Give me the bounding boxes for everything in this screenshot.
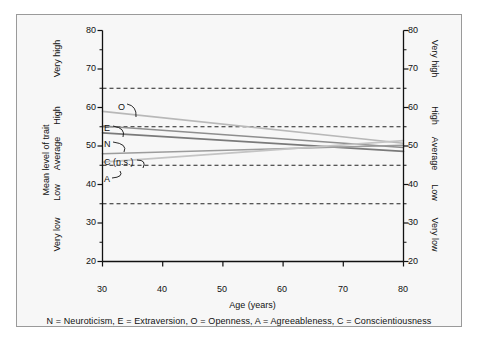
series-label-openness: O [118, 103, 125, 112]
y-tick-label-left-60: 60 [78, 103, 96, 112]
x-tick-label-30: 30 [92, 285, 112, 294]
y-tick-label-left-80: 80 [78, 26, 96, 35]
y-tick-label-left-50: 50 [78, 141, 96, 150]
x-tick-label-60: 60 [272, 285, 292, 294]
y-tick-label-left-40: 40 [78, 180, 96, 189]
figure-caption: N = Neuroticism, E = Extraversion, O = O… [16, 316, 462, 326]
series-label-extraversion: E [104, 124, 110, 133]
y-tick-label-right-70: 70 [408, 64, 426, 73]
y-category-left-very-high: Very high [53, 29, 62, 89]
x-tick-label-40: 40 [152, 285, 172, 294]
y-category-left-very-low: Very low [53, 205, 62, 265]
x-axis-title: Age (years) [102, 300, 403, 310]
y-axis-title: Mean level of trait [41, 100, 51, 220]
series-label-neuroticism: N [104, 140, 111, 149]
series-label-conscientiousness: C (n.s.) [104, 158, 134, 167]
y-category-right-very-high: Very high [430, 29, 439, 89]
y-tick-label-right-40: 40 [408, 180, 426, 189]
y-tick-label-right-80: 80 [408, 26, 426, 35]
series-label-agreeableness: A [104, 175, 110, 184]
x-tick-label-80: 80 [393, 285, 413, 294]
y-tick-label-left-30: 30 [78, 218, 96, 227]
figure-container: 80 70 60 50 40 30 20 80 70 60 50 40 30 2… [0, 0, 480, 341]
y-tick-label-right-30: 30 [408, 218, 426, 227]
y-tick-label-right-50: 50 [408, 141, 426, 150]
y-tick-label-left-20: 20 [78, 257, 96, 266]
y-tick-label-left-70: 70 [78, 64, 96, 73]
x-tick-label-70: 70 [333, 285, 353, 294]
y-tick-label-right-60: 60 [408, 103, 426, 112]
y-category-right-very-low: Very low [430, 205, 439, 265]
x-tick-label-50: 50 [212, 285, 232, 294]
y-tick-label-right-20: 20 [408, 257, 426, 266]
